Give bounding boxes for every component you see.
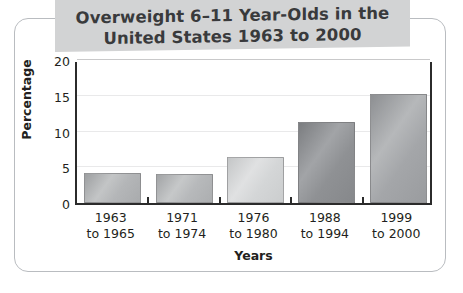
x-axis-tick-label-line: to 1965 [75, 226, 146, 242]
x-axis-tick-label-line: 1988 [289, 210, 360, 226]
bar-fill [227, 157, 284, 203]
x-axis-tick-label-line: to 1974 [146, 226, 217, 242]
x-axis-tick-label-line: 1976 [218, 210, 289, 226]
x-axis-tick-label-line: to 1994 [289, 226, 360, 242]
chart-title-line-2: United States 1963 to 2000 [103, 24, 361, 49]
x-axis-tick-label: 1976to 1980 [218, 210, 289, 242]
x-axis-tick-label: 1971to 1974 [146, 210, 217, 242]
x-axis-tick-labels: 1963to 19651971to 19741976to 19801988to … [75, 210, 432, 246]
bar-fill [298, 122, 355, 203]
bar-fill [370, 94, 427, 203]
x-axis-tick [147, 197, 149, 204]
x-axis-tick [290, 197, 292, 204]
x-axis-tick-label: 1963to 1965 [75, 210, 146, 242]
bar [298, 122, 355, 203]
bar-fill [156, 174, 213, 203]
x-axis-tick [362, 197, 364, 204]
x-axis-tick-label-line: 1999 [361, 210, 432, 226]
y-axis-tick-label: 0 [44, 199, 70, 211]
chart-title: Overweight 6–11 Year-Olds in the United … [55, 0, 410, 55]
x-axis-tick-label: 1988to 1994 [289, 210, 360, 242]
gridline [77, 59, 430, 60]
x-axis-tick-label-line: 1971 [146, 210, 217, 226]
y-axis-tick-label: 15 [44, 92, 70, 104]
bar [156, 174, 213, 203]
y-axis-tick-labels: 05101520 [44, 62, 70, 205]
x-axis-title: Years [75, 248, 432, 263]
y-axis-tick-label: 10 [44, 128, 70, 140]
bar [84, 173, 141, 203]
x-axis-tick-label-line: 1963 [75, 210, 146, 226]
bar [227, 157, 284, 203]
bar-series [77, 62, 430, 203]
x-axis-tick [219, 197, 221, 204]
bar [370, 94, 427, 203]
y-axis-tick-label: 20 [44, 56, 70, 68]
y-axis-title: Percentage [19, 50, 34, 150]
x-axis-tick-label-line: to 1980 [218, 226, 289, 242]
x-axis-tick-label-line: to 2000 [361, 226, 432, 242]
bar-fill [84, 173, 141, 203]
x-axis-tick-label: 1999to 2000 [361, 210, 432, 242]
y-axis-tick-label: 5 [44, 163, 70, 175]
plot-area [75, 62, 432, 205]
